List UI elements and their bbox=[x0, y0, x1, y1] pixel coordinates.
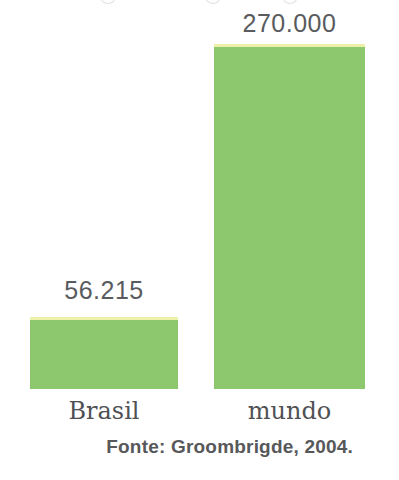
category-label-mundo: mundo bbox=[214, 397, 365, 425]
category-label-brasil: Brasil bbox=[30, 397, 178, 425]
cropped-title-fragment bbox=[282, 0, 298, 4]
cropped-title-fragment bbox=[205, 0, 221, 4]
bar-value-label-brasil: 56.215 bbox=[30, 276, 178, 305]
source-caption: Fonte: Groombrigde, 2004. bbox=[106, 436, 353, 458]
bar-chart: 270.000 56.215 Brasil mundo Fonte: Groom… bbox=[0, 0, 399, 480]
bar-brasil bbox=[30, 317, 178, 389]
cropped-title-fragment bbox=[100, 0, 116, 4]
bar-value-label-mundo: 270.000 bbox=[214, 9, 365, 38]
bar-mundo bbox=[214, 44, 365, 389]
